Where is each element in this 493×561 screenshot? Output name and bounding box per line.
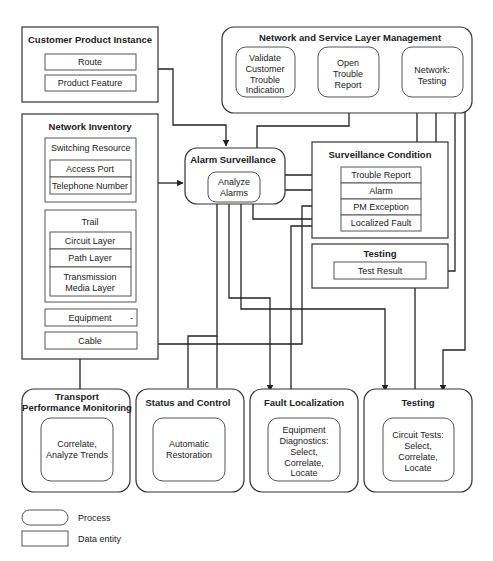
process-testing: Testing Circuit Tests: Select, Correlate… — [364, 389, 472, 492]
process-fault-localization: Fault Localization Equipment Diagnostics… — [250, 389, 358, 492]
network-inventory: Network Inventory Switching Resource Acc… — [22, 114, 158, 359]
nslm-validate-1: Validate — [249, 53, 281, 63]
testing-data-entity: Testing Test Result — [312, 244, 448, 288]
ni-media-layer: Media Layer — [65, 283, 115, 293]
ni-equipment-mark: - — [130, 313, 133, 323]
fl-inner-3: Select, — [290, 447, 318, 457]
legend: Process Data entity — [22, 510, 122, 546]
nslm-network-testing-1: Network: — [414, 65, 450, 75]
ni-cable: Cable — [78, 336, 102, 346]
nslm-title: Network and Service Layer Management — [259, 32, 442, 43]
nslm-open-2: Trouble — [333, 69, 363, 79]
ni-switching-resource: Switching Resource — [51, 143, 131, 153]
tpm-title-1: Transport — [55, 391, 100, 402]
nslm-validate-3: Trouble — [250, 75, 280, 85]
td-title: Testing — [363, 248, 396, 259]
sc-alarm: Alarm — [369, 186, 393, 196]
sc-localized-fault: Localized Fault — [351, 218, 412, 228]
tpm-inner-2: Analyze Trends — [46, 450, 109, 460]
ni-circuit-layer: Circuit Layer — [65, 236, 116, 246]
process-transport-performance-monitoring: Transport Performance Monitoring Correla… — [22, 389, 132, 492]
nslm-validate-2: Customer — [245, 64, 284, 74]
ni-path-layer: Path Layer — [68, 253, 112, 263]
diagram-canvas: Customer Product Instance Route Product … — [0, 0, 493, 561]
sc-trouble-report: Trouble Report — [351, 170, 411, 180]
ni-access-port: Access Port — [66, 164, 115, 174]
surveillance-condition: Surveillance Condition Trouble Report Al… — [312, 142, 448, 238]
fl-inner-1: Equipment — [282, 425, 326, 435]
as-process-2: Alarms — [220, 188, 249, 198]
pt-inner-1: Circuit Tests: — [392, 430, 443, 440]
tpm-title-2: Performance Monitoring — [22, 402, 132, 413]
fl-title: Fault Localization — [264, 397, 344, 408]
nslm-validate-4: Indication — [246, 85, 285, 95]
sc-proc-inner-2: Restoration — [166, 450, 212, 460]
ni-telephone-number: Telephone Number — [52, 181, 128, 191]
as-title: Alarm Surveillance — [190, 154, 276, 165]
tpm-inner-1: Correlate, — [57, 439, 97, 449]
nslm-open-1: Open — [337, 58, 359, 68]
pt-inner-2: Select, — [404, 441, 432, 451]
legend-data-entity-label: Data entity — [78, 534, 122, 544]
as-process-1: Analyze — [218, 177, 250, 187]
cpi-route: Route — [78, 57, 102, 67]
nslm-network-testing-2: Testing — [418, 76, 447, 86]
sc-pm-exception: PM Exception — [353, 202, 409, 212]
process-status-and-control: Status and Control Automatic Restoration — [136, 389, 244, 492]
sc-proc-inner-1: Automatic — [169, 439, 210, 449]
pt-title: Testing — [401, 397, 434, 408]
nslm-open-3: Report — [334, 80, 362, 90]
ni-equipment: Equipment — [68, 313, 112, 323]
sc-proc-title: Status and Control — [146, 397, 231, 408]
ni-transmission: Transmission — [63, 272, 116, 282]
sc-title: Surveillance Condition — [329, 149, 432, 160]
ni-title: Network Inventory — [49, 121, 133, 132]
legend-data-entity-symbol — [22, 531, 68, 546]
cpi-product-feature: Product Feature — [58, 78, 123, 88]
fl-inner-2: Diagnostics: — [279, 436, 328, 446]
cpi-title: Customer Product Instance — [28, 34, 152, 45]
td-test-result: Test Result — [358, 266, 403, 276]
ni-trail-title: Trail — [81, 217, 98, 227]
fl-inner-4: Correlate, — [284, 458, 324, 468]
alarm-surveillance: Alarm Surveillance Analyze Alarms — [185, 148, 285, 204]
pt-inner-3: Correlate, — [398, 452, 438, 462]
customer-product-instance: Customer Product Instance Route Product … — [22, 27, 158, 102]
legend-process-symbol — [22, 510, 68, 525]
pt-inner-4: Locate — [404, 463, 431, 473]
network-service-layer-management: Network and Service Layer Management Val… — [222, 27, 472, 113]
legend-process-label: Process — [78, 513, 111, 523]
fl-inner-5: Locate — [290, 468, 317, 478]
